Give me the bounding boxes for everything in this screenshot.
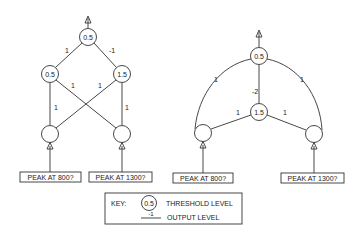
weight-label: 1 — [71, 82, 75, 89]
node-threshold: 0.5 — [254, 53, 264, 60]
input-node — [114, 126, 131, 143]
edge-in2-hidden — [267, 115, 306, 130]
input-label: PEAK AT 800? — [180, 175, 226, 182]
weight-label: 1 — [236, 109, 240, 116]
edge-in1-output — [195, 59, 251, 129]
arched-network: 1 1 -2 1 1 0.5 1.5 PEAK AT 800? PEAK AT … — [173, 30, 344, 183]
key-output-example: -1 — [148, 211, 154, 217]
node-threshold: 0.5 — [83, 34, 93, 41]
weight-label: 1 — [300, 76, 304, 83]
node-threshold: 0.5 — [45, 71, 55, 78]
weight-label: 1 — [54, 104, 58, 111]
weight-label: -2 — [252, 88, 258, 95]
key-threshold-example: 0.5 — [144, 200, 154, 207]
input-label: PEAK AT 1300? — [96, 174, 146, 181]
input-node — [195, 125, 212, 142]
edge-in2-output — [267, 59, 322, 130]
key-title: KEY: — [111, 200, 127, 207]
input-node — [306, 126, 323, 143]
edge-h1-output — [56, 43, 82, 67]
input-node — [42, 126, 59, 143]
legend-key: KEY: 0.5 THRESHOLD LEVEL -1 OUTPUT LEVEL — [105, 193, 242, 224]
edge-in1-hidden — [211, 115, 251, 129]
neural-network-diagram: 1 -1 1 1 1 1 0.5 0.5 1.5 PEAK AT 800? PE… — [0, 0, 359, 237]
key-threshold-label: THRESHOLD LEVEL — [166, 200, 233, 207]
weight-label: 1 — [283, 109, 287, 116]
input-label: PEAK AT 1300? — [288, 175, 338, 182]
weight-label: 1 — [65, 47, 69, 54]
key-output-label: OUTPUT LEVEL — [167, 214, 219, 221]
weight-label: 1 — [125, 104, 129, 111]
node-threshold: 1.5 — [117, 71, 127, 78]
input-label: PEAK AT 800? — [27, 174, 73, 181]
weight-label: -1 — [109, 47, 115, 54]
node-threshold: 1.5 — [254, 109, 264, 116]
crossed-network: 1 -1 1 1 1 1 0.5 0.5 1.5 PEAK AT 800? PE… — [20, 16, 152, 182]
weight-label: 1 — [98, 82, 102, 89]
weight-label: 1 — [214, 76, 218, 83]
